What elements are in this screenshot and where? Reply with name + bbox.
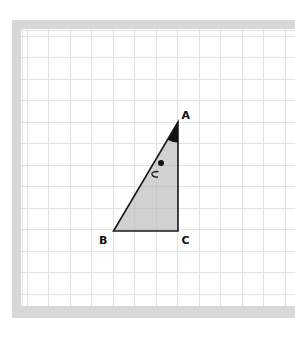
vertex-label-b: B [99,234,107,247]
dot-mark [158,160,164,166]
vertex-label-c: C [182,234,190,247]
triangle-diagram: A B C [0,0,295,337]
vertex-label-a: A [182,109,191,122]
